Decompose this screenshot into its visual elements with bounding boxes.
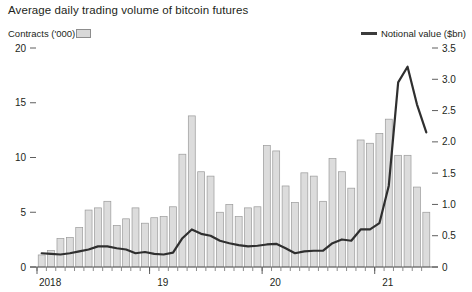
bar-2019-01 bbox=[151, 218, 158, 267]
bar-2021-06 bbox=[423, 212, 430, 267]
bar-2020-06 bbox=[310, 176, 317, 267]
ytick-label-left-3: 15 bbox=[15, 97, 27, 108]
bar-2020-01 bbox=[263, 145, 270, 267]
bar-2018-01 bbox=[38, 255, 45, 267]
bar-2020-03 bbox=[282, 186, 289, 267]
bar-2018-03 bbox=[57, 239, 64, 267]
bar-2021-05 bbox=[413, 187, 420, 267]
bar-2020-02 bbox=[273, 151, 280, 267]
bar-2021-04 bbox=[404, 155, 411, 267]
bar-2018-07 bbox=[95, 208, 102, 267]
ytick-label-right-4: 2.0 bbox=[442, 136, 456, 147]
bar-2019-09 bbox=[226, 205, 233, 267]
bar-2020-09 bbox=[338, 172, 345, 267]
bar-2018-06 bbox=[85, 210, 92, 267]
ytick-label-left-0: 0 bbox=[20, 262, 26, 273]
bar-2020-10 bbox=[348, 188, 355, 267]
chart-container: Average daily trading volume of bitcoin … bbox=[0, 0, 472, 292]
ytick-label-left-1: 5 bbox=[20, 207, 26, 218]
bar-2020-11 bbox=[357, 140, 364, 267]
ytick-label-right-0: 0 bbox=[442, 262, 448, 273]
bar-2018-08 bbox=[104, 201, 111, 267]
bar-2018-12 bbox=[141, 223, 148, 267]
bar-2018-11 bbox=[132, 208, 139, 267]
bar-2020-12 bbox=[367, 143, 374, 267]
ytick-label-left-4: 20 bbox=[15, 43, 27, 54]
bar-2018-09 bbox=[113, 225, 120, 267]
bar-2019-04 bbox=[179, 154, 186, 267]
bar-2020-04 bbox=[292, 202, 299, 267]
bar-2019-10 bbox=[235, 217, 242, 267]
ytick-label-right-1: 0.5 bbox=[442, 230, 456, 241]
xtick-label-1: 19 bbox=[157, 277, 169, 288]
bar-2019-07 bbox=[207, 176, 214, 267]
plot-area: 0510152000.51.01.52.02.53.03.52018192021 bbox=[0, 0, 472, 292]
ytick-label-left-2: 10 bbox=[15, 152, 27, 163]
bar-2019-06 bbox=[198, 172, 205, 267]
ytick-label-right-2: 1.0 bbox=[442, 199, 456, 210]
xtick-label-3: 21 bbox=[382, 277, 394, 288]
bar-2019-05 bbox=[188, 116, 195, 267]
xtick-label-0: 2018 bbox=[39, 277, 62, 288]
bar-2019-12 bbox=[254, 207, 261, 267]
bar-2019-11 bbox=[245, 208, 252, 267]
ytick-label-right-5: 2.5 bbox=[442, 105, 456, 116]
bar-2020-08 bbox=[329, 159, 336, 267]
bar-2020-07 bbox=[320, 201, 327, 267]
bar-2021-01 bbox=[376, 133, 383, 267]
ytick-label-right-6: 3.0 bbox=[442, 74, 456, 85]
ytick-label-right-7: 3.5 bbox=[442, 43, 456, 54]
bar-2018-10 bbox=[123, 219, 130, 267]
bar-2018-05 bbox=[76, 228, 83, 267]
bar-2021-03 bbox=[395, 155, 402, 267]
bar-2019-03 bbox=[170, 207, 177, 267]
xtick-label-2: 20 bbox=[270, 277, 282, 288]
ytick-label-right-3: 1.5 bbox=[442, 168, 456, 179]
bar-2019-02 bbox=[160, 217, 167, 267]
